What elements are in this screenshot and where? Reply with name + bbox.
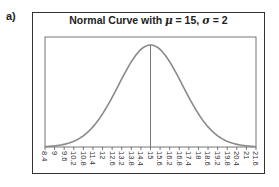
x-tick-label: 16.8 xyxy=(175,151,184,166)
x-tick-label: 15 xyxy=(146,151,155,159)
x-tick-label: 20.4 xyxy=(232,151,241,166)
x-tick-label: 13.2 xyxy=(117,151,126,166)
normal-curve-plot: 8.499.610.210.811.41212.613.213.814.4151… xyxy=(0,0,279,187)
x-tick-label: 12.6 xyxy=(108,151,117,166)
x-tick-label: 18 xyxy=(194,151,203,159)
x-tick-label: 10.2 xyxy=(69,151,78,166)
x-tick-label: 18.6 xyxy=(203,151,212,166)
x-tick-label: 19.2 xyxy=(213,151,222,166)
x-tick-label: 16.2 xyxy=(165,151,174,166)
x-tick-label: 9 xyxy=(50,151,59,155)
x-tick-label: 21.6 xyxy=(251,151,260,166)
x-tick-label: 12 xyxy=(98,151,107,159)
x-tick-label: 17.4 xyxy=(184,151,193,166)
x-tick-label: 14.4 xyxy=(136,151,145,166)
x-tick-label: 21 xyxy=(242,151,251,159)
x-tick-label: 11.4 xyxy=(88,151,97,165)
x-tick-label: 15.6 xyxy=(155,151,164,166)
x-tick-label: 19.8 xyxy=(223,151,232,166)
x-tick-label: 10.8 xyxy=(79,151,88,166)
x-tick-label: 9.6 xyxy=(60,151,69,161)
x-tick-label: 8.4 xyxy=(40,151,49,161)
x-tick-label: 13.8 xyxy=(127,151,136,166)
